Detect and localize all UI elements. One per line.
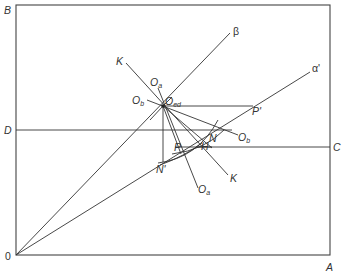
label-Oa-top: Oa [150,76,162,89]
label-C: C [333,141,341,153]
label-P-prime: P' [252,105,262,117]
label-beta: β [233,25,239,37]
label-O: 0 [5,250,11,262]
label-N-prime: N' [156,163,167,175]
label-K-bottom: K [230,172,238,184]
label-P: P [174,141,181,153]
line-Oed-lower-left [150,106,163,120]
label-A: A [325,261,333,273]
label-alpha-prime: α' [312,62,320,74]
label-Ob-left: Ob [132,94,144,107]
label-Ob-right: Ob [238,131,250,144]
label-K-top: K [116,55,124,67]
geometry-diagram: B D 0 A C β α' K K Oa Ob Oed P' N H P N'… [0,0,343,278]
label-N: N [209,132,217,144]
label-Oa-bottom: Oa [198,183,210,196]
label-Oed: Oed [165,95,182,108]
label-B: B [4,4,11,16]
label-H: H [201,140,209,152]
label-D: D [4,124,12,136]
